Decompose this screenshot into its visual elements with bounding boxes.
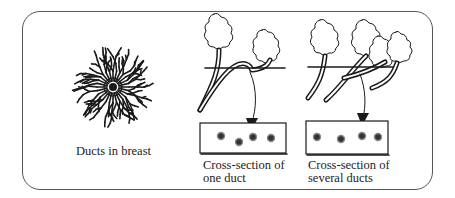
caption-several-ducts-line2: several ducts [308, 172, 390, 185]
caption-several-ducts: Cross-section of several ducts [308, 159, 390, 185]
caption-one-duct: Cross-section of one duct [203, 159, 285, 185]
caption-ducts-in-breast: Ducts in breast [76, 145, 151, 158]
diagram-figure: Ducts in breast Cross-section of one duc… [0, 0, 455, 198]
breast-ducts-illustration [73, 48, 154, 128]
one-duct-illustration [200, 13, 287, 154]
several-ducts-illustration [306, 19, 412, 155]
caption-one-duct-line2: one duct [203, 172, 285, 185]
